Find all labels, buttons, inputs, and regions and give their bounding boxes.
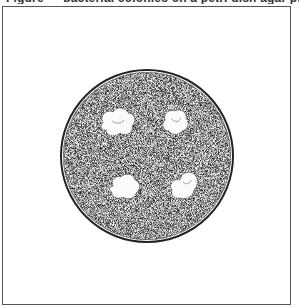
petri-dish-illustration <box>0 0 299 307</box>
colony-2 <box>163 110 188 134</box>
